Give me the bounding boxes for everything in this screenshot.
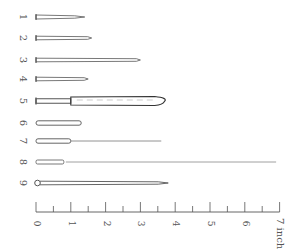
scale-unit-label: 7 inch — [275, 218, 286, 249]
item-label-4: 4 — [18, 73, 28, 85]
needle-6 — [36, 121, 81, 125]
item-label-8: 8 — [18, 156, 28, 168]
scale-tick-0: 0 — [32, 219, 41, 229]
needle-4 — [36, 77, 88, 81]
needle-5-shaft — [36, 99, 71, 103]
scale-tick-1: 1 — [67, 219, 76, 229]
needle-3 — [36, 58, 140, 62]
scale-tick-4: 4 — [171, 219, 180, 229]
item-label-1: 1 — [18, 11, 28, 23]
item-label-2: 2 — [18, 32, 28, 44]
needle-8-rod — [36, 160, 64, 164]
needle-diagram — [0, 0, 300, 250]
needle-2 — [36, 36, 92, 40]
item-label-3: 3 — [18, 54, 28, 66]
scale-tick-2: 2 — [102, 219, 111, 229]
item-label-9: 9 — [18, 177, 28, 189]
needle-9 — [40, 181, 168, 185]
needle-5-sheath — [71, 97, 166, 106]
diagram-canvas — [0, 0, 300, 250]
item-label-5: 5 — [18, 95, 28, 107]
scale-tick-6: 6 — [241, 219, 250, 229]
needle-1 — [36, 15, 85, 19]
scale-tick-3: 3 — [136, 219, 145, 229]
item-label-7: 7 — [18, 135, 28, 147]
needle-9-eye — [35, 180, 41, 186]
item-label-6: 6 — [18, 117, 28, 129]
scale-tick-5: 5 — [206, 219, 215, 229]
needle-7-rod — [36, 139, 71, 143]
